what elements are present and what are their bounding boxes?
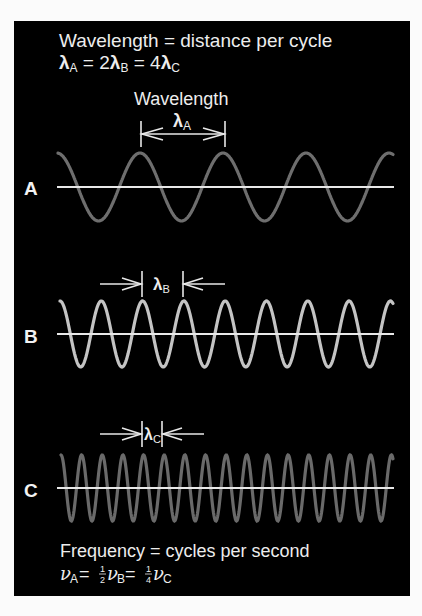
wavelength-relation: λA = 2λB = 4λC <box>59 52 180 75</box>
wave-label-b: B <box>24 326 38 347</box>
wave-diagram: Wavelength = distance per cycle λA = 2λB… <box>0 0 422 616</box>
svg-text:=: = <box>125 564 136 584</box>
frequency-relation: ν A = 1 2 ν B = 1 4 ν C <box>60 563 172 586</box>
svg-text:1: 1 <box>100 564 105 574</box>
wave-b <box>57 271 394 367</box>
svg-text:A: A <box>70 572 78 586</box>
svg-text:B: B <box>117 572 125 586</box>
lambda-a-symbol: λA <box>173 111 191 133</box>
svg-text:1: 1 <box>146 564 151 574</box>
wave-a <box>57 121 394 221</box>
wavelength-caption: Wavelength <box>134 89 228 109</box>
lambda-b-symbol: λB <box>153 275 170 295</box>
svg-text:C: C <box>163 572 172 586</box>
lambda-c-symbol: λC <box>144 426 161 445</box>
wave-label-c: C <box>24 480 38 501</box>
svg-text:4: 4 <box>146 575 151 585</box>
wave-label-a: A <box>24 178 38 199</box>
wave-c <box>57 421 394 521</box>
wavelength-definition: Wavelength = distance per cycle <box>59 30 332 51</box>
svg-text:=: = <box>79 564 90 584</box>
frequency-definition: Frequency = cycles per second <box>60 541 310 561</box>
svg-text:2: 2 <box>100 575 105 585</box>
